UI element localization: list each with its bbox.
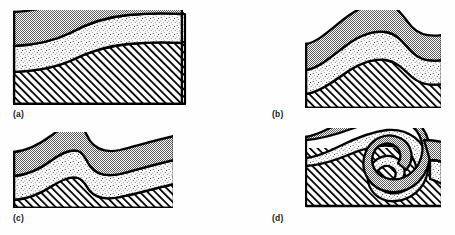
panel-b-group [306, 4, 442, 108]
panel-label-b: (b) [272, 110, 283, 119]
panel-label-d: (d) [272, 214, 283, 223]
fold-development-figure [0, 0, 455, 235]
panel-label-a: (a) [13, 110, 24, 119]
panel-c-group [14, 125, 174, 208]
figure-root: (a) (b) (c) (d) [0, 0, 455, 235]
panel-d-layers [306, 110, 442, 206]
panel-label-c: (c) [13, 214, 24, 223]
panel-d-right-stipple [430, 160, 442, 184]
panel-a-group [14, 0, 182, 104]
panel-d-group [306, 110, 442, 206]
